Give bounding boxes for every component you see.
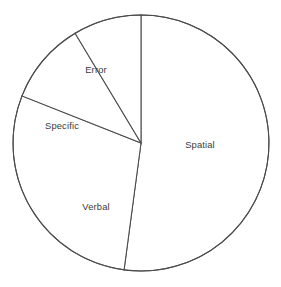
pie-slice-label-error: Error <box>85 64 107 75</box>
pie-slice-label-verbal: Verbal <box>82 201 109 212</box>
pie-slice-label-spatial: Spatial <box>185 139 215 150</box>
pie-slices-group <box>13 15 269 271</box>
pie-chart-figure: SpatialVerbalSpecificError <box>0 0 281 287</box>
pie-chart-svg: SpatialVerbalSpecificError <box>0 0 281 287</box>
pie-slice-label-specific: Specific <box>45 120 79 131</box>
